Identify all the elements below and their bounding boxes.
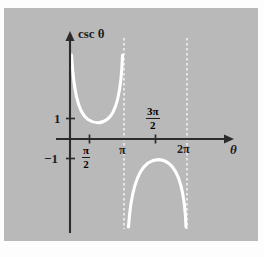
pi-over-2-numerator: π (82, 144, 90, 156)
y-tick-label-one: 1 (54, 112, 61, 125)
pi-over-2-denominator: 2 (82, 158, 90, 170)
curve-branch-lower (129, 160, 187, 227)
curve-branch-upper (72, 55, 123, 123)
y-axis-arrowhead (66, 31, 75, 41)
x-axis-label: θ (230, 143, 237, 156)
plot-svg-canvas (0, 0, 264, 257)
x-tick-label-three-pi-over-2: 3π 2 (146, 105, 160, 131)
three-pi-over-2-denominator: 2 (146, 119, 160, 131)
three-pi-over-2-numerator: 3π (146, 105, 160, 117)
x-tick-label-pi-over-2: π 2 (82, 144, 90, 170)
y-tick-label-negative-one: −1 (44, 152, 58, 165)
x-tick-label-pi: π (119, 144, 126, 156)
y-axis-label: csc θ (78, 27, 105, 40)
cosecant-graph-figure: csc θ θ 1 −1 π 2 π 3π 2 2π (0, 0, 264, 257)
x-tick-label-two-pi: 2π (177, 143, 190, 155)
